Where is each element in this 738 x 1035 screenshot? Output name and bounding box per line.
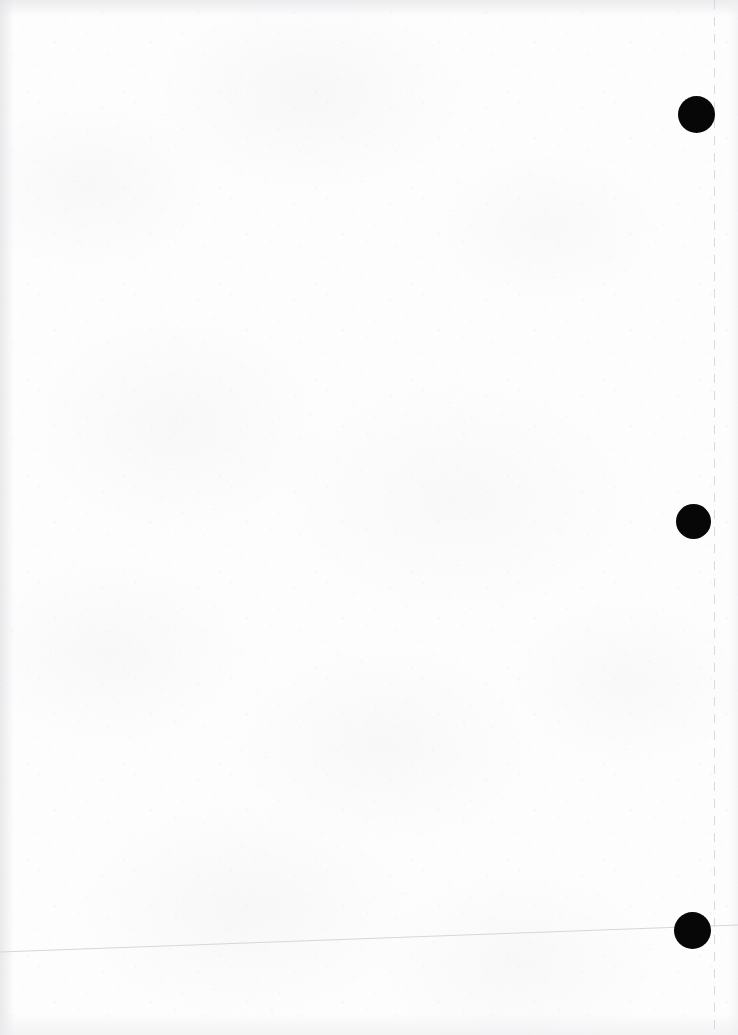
paper-background: [0, 0, 738, 1035]
registration-dot-bottom: [674, 912, 711, 949]
registration-dot-middle: [676, 504, 711, 539]
scanned-page: [0, 0, 738, 1035]
registration-dot-top: [678, 96, 715, 133]
